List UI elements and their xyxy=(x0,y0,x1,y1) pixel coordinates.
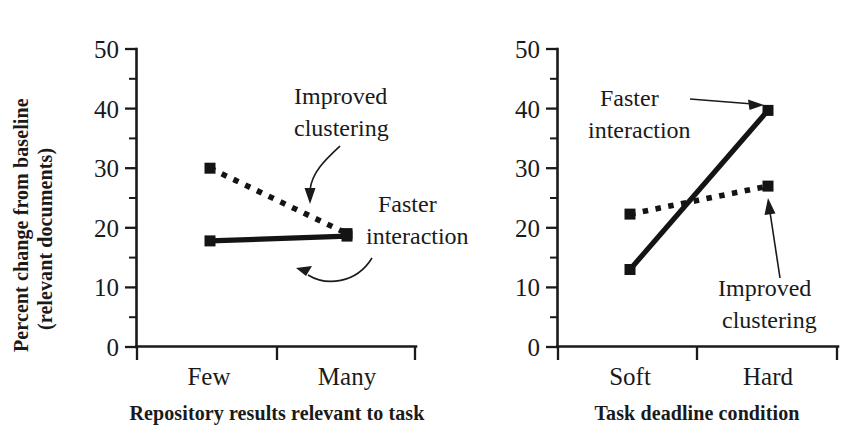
right-annotation-improved-clustering: Improved clustering xyxy=(718,198,817,333)
right-annot-improved-arrowhead xyxy=(765,198,776,215)
left-ytick-20: 20 xyxy=(94,215,119,242)
left-dotted-line xyxy=(210,168,347,233)
left-annot-improved-arrowhead xyxy=(305,188,316,204)
left-x-ticks xyxy=(137,347,415,360)
right-y-tick-labels: 50 40 30 20 10 0 xyxy=(515,36,540,361)
right-annot-faster-line2: interaction xyxy=(588,117,691,143)
left-x-axis-title: Repository results relevant to task xyxy=(130,402,426,425)
left-solid-marker-many xyxy=(342,231,353,242)
left-y-tick-labels: 50 40 30 20 10 0 xyxy=(94,36,119,361)
right-annot-improved-line1: Improved xyxy=(718,275,811,301)
right-xtick-hard: Hard xyxy=(743,363,793,390)
right-annot-improved-line2: clustering xyxy=(722,307,817,333)
left-annot-improved-line1: Improved xyxy=(294,83,387,109)
left-x-category-labels: Few Many xyxy=(187,363,376,390)
right-annot-improved-leader xyxy=(770,212,780,278)
right-ytick-20: 20 xyxy=(515,215,540,242)
left-solid-line xyxy=(210,236,347,241)
left-series-improved-clustering xyxy=(205,163,353,239)
right-dotted-marker-hard xyxy=(763,181,774,192)
right-annot-faster-arrowhead xyxy=(748,100,764,111)
right-annotation-faster-interaction: Faster interaction xyxy=(588,85,764,143)
left-annot-improved-line2: clustering xyxy=(294,115,389,141)
right-xtick-soft: Soft xyxy=(609,363,651,390)
right-panel: 50 40 30 20 10 0 Soft Hard Task deadline… xyxy=(515,36,838,424)
right-solid-marker-hard xyxy=(763,105,774,116)
left-xtick-many: Many xyxy=(318,363,377,390)
right-solid-marker-soft xyxy=(625,264,636,275)
right-ytick-50: 50 xyxy=(515,36,540,63)
left-annot-faster-line2: interaction xyxy=(366,223,469,249)
left-y-axis-title-line1: Percent change from baseline xyxy=(10,98,33,352)
right-x-axis-title: Task deadline condition xyxy=(595,402,800,424)
left-ytick-50: 50 xyxy=(94,36,119,63)
right-dotted-marker-soft xyxy=(625,209,636,220)
left-ytick-10: 10 xyxy=(94,274,119,301)
left-xtick-few: Few xyxy=(187,363,230,390)
right-ytick-10: 10 xyxy=(515,274,540,301)
right-x-category-labels: Soft Hard xyxy=(609,363,793,390)
right-annot-faster-leader xyxy=(690,99,753,104)
left-y-axis-title-line2: (relevant documents) xyxy=(34,148,57,330)
right-ytick-0: 0 xyxy=(528,334,541,361)
left-solid-marker-few xyxy=(205,235,216,246)
left-panel: Percent change from baseline (relevant d… xyxy=(10,36,469,425)
left-series-faster-interaction xyxy=(205,231,353,247)
left-annot-improved-leader xyxy=(310,146,340,190)
right-annot-faster-line1: Faster xyxy=(600,85,659,111)
left-ytick-40: 40 xyxy=(94,96,119,123)
left-dotted-marker-few xyxy=(205,163,216,174)
right-ytick-30: 30 xyxy=(515,155,540,182)
left-y-axis-title: Percent change from baseline (relevant d… xyxy=(10,98,57,352)
left-annot-faster-arrowhead xyxy=(296,266,312,276)
left-annot-faster-leader xyxy=(308,258,372,281)
right-ytick-40: 40 xyxy=(515,96,540,123)
left-ytick-0: 0 xyxy=(107,334,120,361)
left-annot-faster-line1: Faster xyxy=(378,191,437,217)
dual-line-chart: Percent change from baseline (relevant d… xyxy=(0,0,854,446)
right-x-ticks xyxy=(558,347,837,360)
left-ytick-30: 30 xyxy=(94,155,119,182)
figure-container: Percent change from baseline (relevant d… xyxy=(0,0,854,446)
left-annotation-improved-clustering: Improved clustering xyxy=(294,83,389,204)
